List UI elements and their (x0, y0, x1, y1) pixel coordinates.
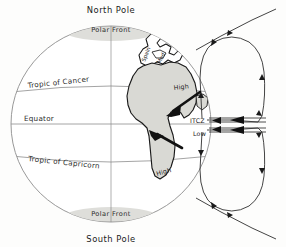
label-north-pole: North Pole (87, 5, 135, 15)
label-polar-front-south: Polar Front (91, 210, 131, 218)
diagram-canvas: North Pole South Pole Polar Front Polar … (0, 0, 286, 247)
label-itcz: ITCZ (190, 117, 205, 124)
circulation-diagram: North Pole South Pole Polar Front Polar … (0, 0, 286, 247)
label-equator: Equator (24, 114, 54, 123)
trade-arrow-n (230, 116, 244, 124)
jet-line-north (196, 9, 276, 50)
label-low: Low (193, 130, 206, 137)
trade-arrow-s (230, 126, 244, 134)
label-south-pole: South Pole (86, 234, 135, 244)
trade-wind-flows (209, 116, 266, 134)
jet-line-south (196, 198, 276, 239)
label-polar-front-north: Polar Front (91, 26, 131, 34)
